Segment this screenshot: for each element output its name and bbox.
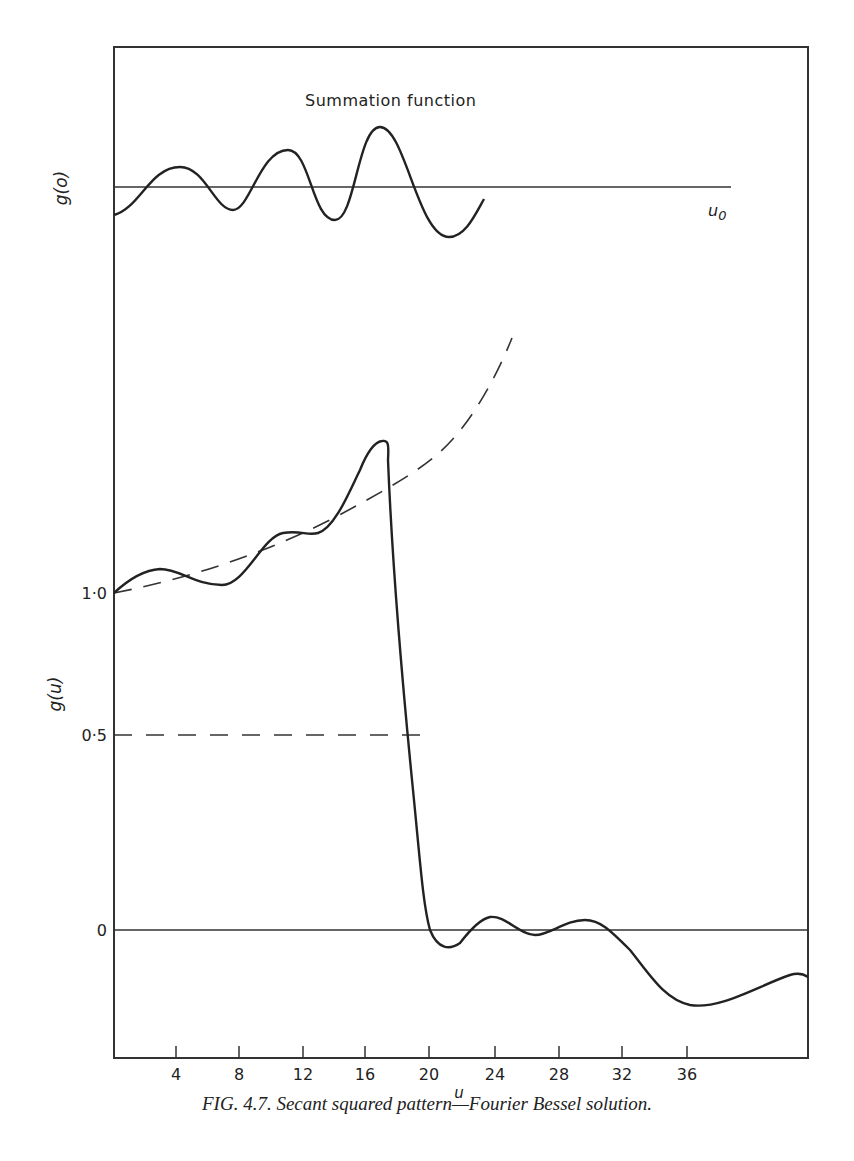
figure-caption: FIG. 4.7. Secant squared pattern—Fourier… xyxy=(0,1093,854,1115)
x-tick-label: 36 xyxy=(677,1065,697,1084)
secant-squared-curve xyxy=(114,338,512,593)
baseline-label: u0 xyxy=(708,201,726,223)
x-tick-label: 16 xyxy=(355,1065,375,1084)
x-tick-label: 4 xyxy=(171,1065,181,1084)
x-axis-ticks xyxy=(176,1046,687,1058)
figure: Summation function u0 g(o) 1·0 0·5 0 g(u… xyxy=(0,0,854,1161)
pattern-ylabel: g(u) xyxy=(45,677,65,712)
fourier-bessel-curve xyxy=(114,441,808,1006)
summation-curve xyxy=(114,127,484,237)
summation-ylabel: g(o) xyxy=(51,171,71,205)
x-tick-label: 24 xyxy=(485,1065,505,1084)
x-tick-label: 20 xyxy=(419,1065,439,1084)
summation-title: Summation function xyxy=(305,91,476,110)
y-tick-label-half: 0·5 xyxy=(82,726,107,745)
x-axis-tick-labels: 4 8 12 16 20 24 28 32 36 xyxy=(171,1065,697,1084)
x-tick-label: 32 xyxy=(612,1065,632,1084)
x-tick-label: 8 xyxy=(234,1065,244,1084)
y-tick-label-1: 1·0 xyxy=(82,584,107,603)
x-tick-label: 12 xyxy=(293,1065,313,1084)
x-tick-label: 28 xyxy=(549,1065,569,1084)
y-tick-label-0: 0 xyxy=(97,921,107,940)
